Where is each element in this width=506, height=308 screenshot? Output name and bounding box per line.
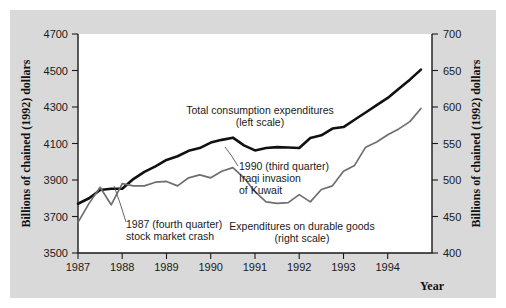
annotation-line: of Kuwait <box>239 184 282 196</box>
left-tick-3500: 3500 <box>44 247 68 259</box>
annotation-line: (left scale) <box>236 116 284 128</box>
right-tick-550: 550 <box>443 138 461 150</box>
annotation-line: Iraqi invasion <box>239 172 301 184</box>
x-tick-1994: 1994 <box>375 261 399 273</box>
left-axis-ticks <box>72 34 78 253</box>
x-tick-1992: 1992 <box>287 261 311 273</box>
right-tick-700: 700 <box>443 28 461 40</box>
x-tick-1988: 1988 <box>110 261 134 273</box>
annotation-stock-crash: 1987 (fourth quarter) stock market crash <box>126 218 222 242</box>
left-tick-4500: 4500 <box>44 65 68 77</box>
left-tick-4300: 4300 <box>44 101 68 113</box>
annotation-line: Expenditures on durable goods <box>229 220 374 232</box>
right-tick-500: 500 <box>443 174 461 186</box>
left-tick-4100: 4100 <box>44 138 68 150</box>
left-tick-3900: 3900 <box>44 174 68 186</box>
left-tick-4700: 4700 <box>44 28 68 40</box>
left-tick-3700: 3700 <box>44 211 68 223</box>
x-tick-1993: 1993 <box>331 261 355 273</box>
right-tick-400: 400 <box>443 247 461 259</box>
right-tick-650: 650 <box>443 65 461 77</box>
x-axis-ticks <box>78 253 388 259</box>
right-axis-tick-labels: 700 650 600 550 500 450 400 <box>443 28 461 259</box>
line-chart: 4700 4500 4300 4100 3900 3700 3500 700 <box>10 10 496 298</box>
y-axis-title-right: Billions of chained (1992) dollars <box>469 59 483 227</box>
annotation-line: stock market crash <box>126 230 214 242</box>
left-axis-tick-labels: 4700 4500 4300 4100 3900 3700 3500 <box>44 28 68 259</box>
right-tick-450: 450 <box>443 211 461 223</box>
annotation-line: 1987 (fourth quarter) <box>126 218 222 230</box>
figure-panel: 4700 4500 4300 4100 3900 3700 3500 700 <box>10 10 496 298</box>
x-tick-1987: 1987 <box>66 261 90 273</box>
y-axis-title-left: Billions of chained (1992) dollars <box>19 59 33 227</box>
right-axis-ticks <box>432 34 438 253</box>
right-tick-600: 600 <box>443 101 461 113</box>
annotation-line: Total consumption expenditures <box>186 104 334 116</box>
annotation-line: (right scale) <box>275 232 330 244</box>
x-axis-tick-labels: 1987 1988 1989 1990 1991 1992 1993 1994 <box>66 261 400 273</box>
x-axis-title: Year <box>420 279 445 293</box>
x-tick-1989: 1989 <box>154 261 178 273</box>
annotation-line: 1990 (third quarter) <box>239 160 329 172</box>
x-tick-1991: 1991 <box>243 261 267 273</box>
x-tick-1990: 1990 <box>198 261 222 273</box>
chart-canvas: 4700 4500 4300 4100 3900 3700 3500 700 <box>10 10 496 298</box>
